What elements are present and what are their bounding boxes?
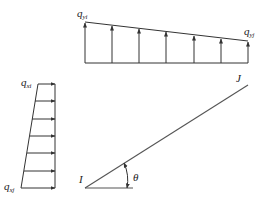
left-load-arrows xyxy=(21,84,55,188)
top-load-arrows xyxy=(85,23,248,63)
left-distributed-load: qxi qxj xyxy=(4,76,55,194)
label-qxi: qxi xyxy=(21,76,32,90)
node-j-label: J xyxy=(236,72,242,84)
label-qyi: qyi xyxy=(77,7,88,21)
element-ij: I J θ xyxy=(78,72,248,188)
angle-arc-icon xyxy=(124,163,128,188)
label-qxj: qxj xyxy=(4,180,15,194)
diagram-canvas: qyi qyj qxi qxj I J xyxy=(0,0,261,199)
element-line xyxy=(85,85,248,188)
angle-theta-label: θ xyxy=(133,171,139,183)
label-qyj: qyj xyxy=(244,25,255,39)
node-i-label: I xyxy=(78,173,84,185)
diagram-svg: qyi qyj qxi qxj I J xyxy=(0,0,261,199)
top-distributed-load: qyi qyj xyxy=(77,7,255,63)
